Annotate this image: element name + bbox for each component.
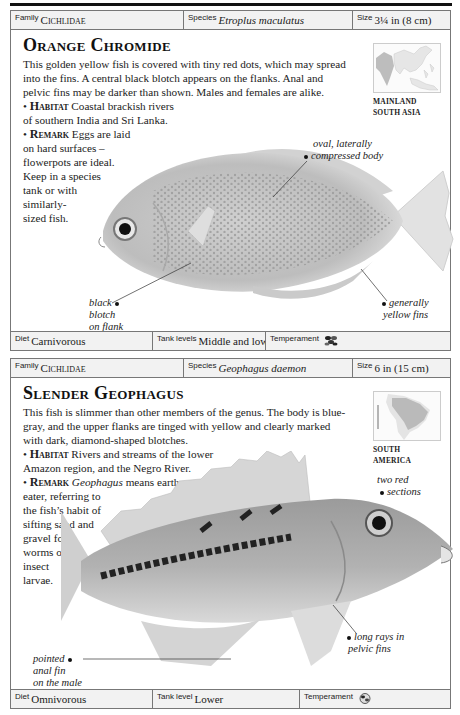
tank-level-cell: Tank levels Middle and lower xyxy=(153,332,266,350)
top-rule xyxy=(10,3,452,6)
fish-group-icon xyxy=(324,335,338,346)
remark-line: tank or with xyxy=(23,184,77,196)
annotation-text: pointed xyxy=(33,653,65,664)
species-label: Species xyxy=(188,13,216,23)
remark-line: insect xyxy=(23,560,49,572)
annotation-text: sections xyxy=(387,486,421,497)
orange-chromide-illustration xyxy=(93,131,460,306)
bullet-icon xyxy=(68,658,72,662)
tank-level-label: Tank level xyxy=(157,692,193,702)
entry-header: Family Cichlidae Species Etroplus macula… xyxy=(11,11,450,30)
bullet-icon xyxy=(380,491,384,495)
size-value: 3¼ in (8 cm) xyxy=(375,12,432,28)
remark-line: similarly- xyxy=(23,198,67,210)
size-label: Size xyxy=(357,361,373,371)
annotation-text: blotch xyxy=(89,309,115,320)
size-cell: Size 6 in (15 cm) xyxy=(353,359,450,377)
range-map-asia xyxy=(373,43,441,93)
entry-title: Slender Geophagus xyxy=(23,383,184,404)
species-cell: Species Etroplus maculatus xyxy=(184,11,353,29)
annotation-text: oval, laterally xyxy=(313,138,372,149)
annotation-body-shape: oval, laterally compressed body xyxy=(301,138,383,162)
annotation-text: compressed body xyxy=(311,150,383,161)
bullet-icon xyxy=(304,155,308,159)
remark-line: worms or xyxy=(23,546,66,558)
family-value: Cichlidae xyxy=(41,12,86,28)
size-cell: Size 3¼ in (8 cm) xyxy=(353,11,450,29)
temperament-label: Temperament xyxy=(270,334,319,344)
family-label: Family xyxy=(15,13,39,23)
description-text: This golden yellow fish is covered with … xyxy=(23,58,346,98)
entry-footer: Diet Carnivorous Tank levels Middle and … xyxy=(11,331,450,350)
tank-level-cell: Tank level Lower xyxy=(153,690,300,708)
bullet-icon xyxy=(347,636,351,640)
annotation-text: two red xyxy=(377,474,408,485)
diet-cell: Diet Carnivorous xyxy=(11,332,153,350)
bullet-icon xyxy=(115,302,119,306)
description-text: This fish is slimmer than other members … xyxy=(23,406,345,446)
entry-title: Orange Chromide xyxy=(23,35,171,56)
annotation-text: black xyxy=(89,297,112,308)
species-cell: Species Geophagus daemon xyxy=(184,359,353,377)
fish-entry-slender-geophagus: Family Cichlidae Species Geophagus daemo… xyxy=(10,358,451,709)
tank-level-label: Tank levels xyxy=(157,334,197,344)
annotation-text: generally xyxy=(389,297,429,308)
diet-cell: Diet Omnivorous xyxy=(11,690,153,708)
diet-value: Carnivorous xyxy=(31,333,85,349)
annotation-yellow-fins: generally yellow fins xyxy=(379,297,429,321)
diet-label: Diet xyxy=(15,692,29,702)
fish-entry-orange-chromide: Family Cichlidae Species Etroplus macula… xyxy=(10,10,451,351)
single-fish-icon xyxy=(358,693,372,704)
annotation-red-sections: two red sections xyxy=(377,474,421,498)
annotation-text: long rays in xyxy=(354,631,404,642)
annotation-text: pelvic fins xyxy=(348,643,391,654)
remark-line: sized fish. xyxy=(23,212,68,224)
temperament-label: Temperament xyxy=(304,692,353,702)
annotation-text: on the male xyxy=(33,677,82,688)
annotation-anal-fin: pointed anal fin on the male xyxy=(33,653,82,689)
map-label: MAINLAND SOUTH ASIA xyxy=(373,96,421,118)
family-cell: Family Cichlidae xyxy=(11,11,184,29)
bullet-icon xyxy=(382,302,386,306)
size-label: Size xyxy=(357,13,373,23)
family-cell: Family Cichlidae xyxy=(11,359,184,377)
habitat-text-2: of southern India and Sri Lanka. xyxy=(23,114,168,126)
remark-line: larvae. xyxy=(23,574,53,586)
entry-header: Family Cichlidae Species Geophagus daemo… xyxy=(11,359,450,378)
remark-label: Remark xyxy=(30,127,69,141)
annotation-text: yellow fins xyxy=(383,309,428,320)
annotation-text: anal fin xyxy=(33,665,65,676)
habitat-label: Habitat xyxy=(30,99,69,113)
species-value: Geophagus daemon xyxy=(218,360,306,376)
family-label: Family xyxy=(15,361,39,371)
diet-value: Omnivorous xyxy=(31,691,86,707)
remark-line: Keep in a species xyxy=(23,170,101,182)
map-label-line: SOUTH ASIA xyxy=(373,108,421,117)
annotation-black-blotch: black blotch on flank xyxy=(89,297,123,333)
species-label: Species xyxy=(188,361,216,371)
family-value: Cichlidae xyxy=(41,360,86,376)
size-value: 6 in (15 cm) xyxy=(375,360,429,376)
temperament-cell: Temperament xyxy=(300,690,450,708)
temperament-cell: Temperament xyxy=(266,332,450,350)
entry-footer: Diet Omnivorous Tank level Lower Tempera… xyxy=(11,689,450,708)
annotation-pelvic-fins: long rays in pelvic fins xyxy=(344,631,404,655)
tank-level-value: Middle and lower xyxy=(199,333,266,349)
map-label-line: MAINLAND xyxy=(373,97,417,106)
habitat-text-1: Coastal brackish rivers xyxy=(71,100,174,112)
range-map-south-america xyxy=(373,391,441,441)
diet-label: Diet xyxy=(15,334,29,344)
tank-level-value: Lower xyxy=(195,691,224,707)
species-value: Etroplus maculatus xyxy=(218,12,303,28)
